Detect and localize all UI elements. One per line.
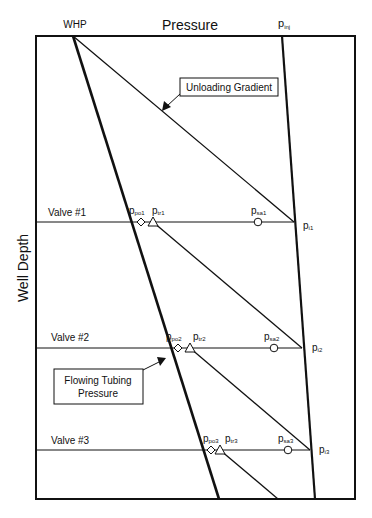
- circle-marker-psa1: [254, 218, 262, 226]
- ptr1-label: ptr1: [152, 205, 165, 216]
- flowing-tubing-arrowhead-icon: [157, 357, 166, 366]
- unloading-gradient-arrowhead-icon: [162, 101, 171, 111]
- unloading-gradient-callout-text: Unloading Gradient: [186, 82, 272, 93]
- ptr3-label: ptr3: [225, 433, 238, 444]
- unloading-gradient-line-4: [220, 450, 278, 499]
- plot-frame: [36, 36, 355, 499]
- whp-label: WHP: [63, 19, 87, 30]
- unloading-gradient-line-2: [153, 222, 302, 348]
- psa2-label: psa2: [264, 331, 280, 342]
- diamond-marker-ppo3: [207, 446, 215, 454]
- ppo3-label: ppo3: [203, 433, 219, 444]
- pi2-label: pi2: [312, 342, 323, 353]
- circle-marker-psa2: [270, 344, 278, 352]
- valve-1-label: Valve #1: [48, 207, 87, 218]
- ppo2-label: ppo2: [166, 331, 182, 342]
- pinj-label: pinj: [278, 17, 290, 30]
- flowing-tubing-arrow-shaft: [143, 362, 159, 370]
- pressure-axis-title: Pressure: [162, 17, 218, 33]
- diamond-marker-ppo2: [174, 344, 182, 352]
- valve-2-label: Valve #2: [51, 332, 90, 343]
- well-depth-axis-label: Well Depth: [15, 234, 31, 302]
- psa1-label: psa1: [251, 205, 267, 216]
- gas-lift-design-diagram: Pressure WHP pinj Well Depth Valve #1 Va…: [0, 0, 372, 518]
- ptr2-label: ptr2: [193, 331, 206, 342]
- flowing-tubing-callout-line1: Flowing Tubing: [64, 375, 131, 386]
- unloading-gradient-arrow-shaft: [167, 94, 180, 106]
- pi3-label: pi3: [319, 444, 330, 455]
- flowing-tubing-callout-line2: Pressure: [78, 388, 118, 399]
- diamond-marker-ppo1: [137, 218, 145, 226]
- unloading-gradient-line-1: [73, 36, 294, 222]
- pi1-label: pi1: [303, 220, 314, 231]
- flowing-tubing-pressure-line: [73, 36, 219, 499]
- ppo1-label: ppo1: [129, 205, 145, 216]
- injection-pressure-line: [282, 36, 315, 499]
- valve-3-label: Valve #3: [51, 435, 90, 446]
- circle-marker-psa3: [284, 446, 292, 454]
